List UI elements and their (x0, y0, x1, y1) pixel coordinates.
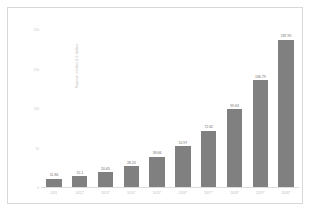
bar-value-label: 52.97 (179, 141, 188, 145)
bar-value-label: 72.62 (204, 125, 213, 129)
y-axis-tick-label: 50 (35, 147, 39, 151)
bar-value-label: 39.66 (153, 151, 162, 155)
bar-group: 136.79 2019* (247, 30, 273, 188)
x-axis-tick-label: 2012* (75, 191, 84, 195)
x-axis-tick-label: 2014* (127, 191, 136, 195)
bar[interactable] (253, 80, 268, 188)
bar-group: 11.86 2011 (41, 30, 67, 188)
bar-group: 20.65 2013* (93, 30, 119, 188)
bar[interactable] (278, 40, 293, 188)
bar-value-label: 20.65 (101, 167, 110, 171)
bar-group: 99.63 2018* (222, 30, 248, 188)
bar[interactable] (201, 131, 216, 188)
bar-value-label: 99.63 (230, 104, 239, 108)
x-axis-tick-label: 2016* (179, 191, 188, 195)
x-axis-tick-label: 2011 (50, 191, 57, 195)
y-axis-tick-label: 100 (34, 107, 39, 111)
y-axis-tick-label: 200 (34, 28, 39, 32)
bar[interactable] (175, 146, 190, 188)
bar-group: 52.97 2016* (170, 30, 196, 188)
bar-value-label: 11.86 (50, 173, 58, 177)
bar[interactable] (124, 166, 139, 188)
bar-value-label: 187.95 (281, 34, 292, 38)
bar-group: 72.62 2017* (196, 30, 222, 188)
y-axis-tick-label: 150 (34, 68, 39, 72)
x-axis-tick-label: 2015* (153, 191, 162, 195)
bar-series: 11.86 2011 15.1 2012* 20.65 2013* 28.24 … (41, 30, 299, 188)
x-axis-tick-label: 2018* (230, 191, 239, 195)
x-axis-line (41, 187, 299, 188)
bar-group: 39.66 2015* (144, 30, 170, 188)
bar-value-label: 28.24 (127, 161, 136, 165)
x-axis-tick-label: 2017* (204, 191, 213, 195)
bar-value-label: 15.1 (76, 171, 83, 175)
bar[interactable] (98, 172, 113, 188)
x-axis-tick-label: 2019* (256, 191, 265, 195)
bar[interactable] (227, 109, 242, 188)
x-axis-tick-label: 2013* (101, 191, 110, 195)
bar-group: 187.95 2020* (273, 30, 299, 188)
bar[interactable] (149, 157, 164, 188)
bar-group: 28.24 2014* (118, 30, 144, 188)
bar-value-label: 136.79 (255, 75, 266, 79)
y-axis-tick-label: 0 (37, 186, 39, 190)
chart-frame: Revenue in billion U.S. dollars 200 150 … (7, 7, 303, 204)
x-axis-tick-label: 2020* (282, 191, 291, 195)
plot-area: Revenue in billion U.S. dollars 200 150 … (41, 30, 299, 188)
bar-group: 15.1 2012* (67, 30, 93, 188)
